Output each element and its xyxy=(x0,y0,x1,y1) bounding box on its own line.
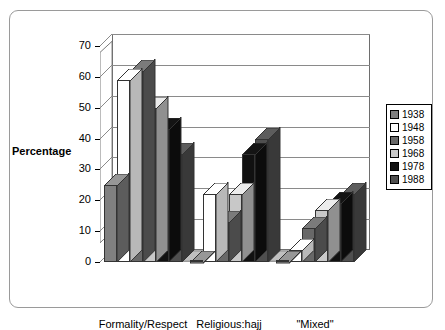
gridline-depth xyxy=(100,65,113,79)
y-tick-mark xyxy=(95,46,100,47)
legend-item: 1988 xyxy=(390,173,428,186)
bar-top-face xyxy=(302,216,315,228)
y-tick-mark xyxy=(95,262,100,263)
y-tick-mark xyxy=(95,77,100,78)
legend-label: 1948 xyxy=(402,123,424,133)
x-tick-label: Formality/Respect xyxy=(99,318,188,330)
bar-side-face xyxy=(182,142,194,250)
legend-swatch-icon xyxy=(390,175,399,184)
bar-top-face xyxy=(104,173,117,185)
legend-item: 1938 xyxy=(390,108,428,121)
gridline-depth xyxy=(100,127,113,141)
y-tick-label: 10 xyxy=(65,225,91,236)
gridline xyxy=(112,34,370,35)
bar-side-face xyxy=(156,96,168,250)
x-tick-label: "Mixed" xyxy=(296,318,333,330)
legend-swatch-icon xyxy=(390,123,399,132)
plot-area: 010203040506070 Formality/RespectReligio… xyxy=(100,46,358,262)
bar-side-face xyxy=(143,59,155,250)
legend-swatch-icon xyxy=(390,136,399,145)
bar-top-face xyxy=(315,198,328,210)
y-tick-mark xyxy=(95,139,100,140)
legend-label: 1988 xyxy=(402,175,424,185)
bar-top-face xyxy=(289,238,302,250)
y-tick-mark xyxy=(95,169,100,170)
legend-label: 1978 xyxy=(402,162,424,172)
legend-label: 1958 xyxy=(402,136,424,146)
bar-top-face xyxy=(203,182,216,194)
legend-swatch-icon xyxy=(390,149,399,158)
y-tick-label: 0 xyxy=(65,256,91,267)
bar-top-face xyxy=(242,142,255,154)
bar-side-face xyxy=(169,117,181,250)
legend-label: 1968 xyxy=(402,149,424,159)
bar xyxy=(104,185,117,262)
legend-swatch-icon xyxy=(390,110,399,119)
legend-swatch-icon xyxy=(390,162,399,171)
gridline-depth xyxy=(100,96,113,110)
bar-side-face xyxy=(268,127,280,250)
gridline-depth xyxy=(100,157,113,171)
legend-item: 1968 xyxy=(390,147,428,160)
legend-item: 1958 xyxy=(390,134,428,147)
y-tick-mark xyxy=(95,108,100,109)
bar-side-face xyxy=(255,142,267,250)
x-tick-label: Religious:hajj xyxy=(196,318,261,330)
y-tick-label: 50 xyxy=(65,102,91,113)
legend-item: 1978 xyxy=(390,160,428,173)
bar-top-face xyxy=(229,182,242,194)
y-tick-label: 60 xyxy=(65,71,91,82)
y-tick-label: 30 xyxy=(65,163,91,174)
gridline-depth xyxy=(100,34,113,48)
y-tick-label: 20 xyxy=(65,194,91,205)
bar-side-face xyxy=(130,68,142,250)
y-tick-mark xyxy=(95,200,100,201)
legend-label: 1938 xyxy=(402,110,424,120)
bar-front-face xyxy=(104,185,117,262)
legend: 193819481958196819781988 xyxy=(386,104,432,190)
y-axis-title: Percentage xyxy=(12,145,71,157)
y-tick-label: 40 xyxy=(65,133,91,144)
y-tick-label: 70 xyxy=(65,40,91,51)
bar-top-face xyxy=(117,68,130,80)
legend-item: 1948 xyxy=(390,121,428,134)
bar-top-face xyxy=(255,127,268,139)
y-tick-mark xyxy=(95,231,100,232)
